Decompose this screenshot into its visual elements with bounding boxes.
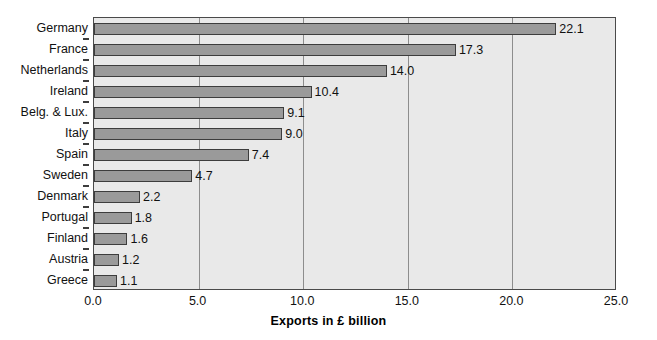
bar-row: 10.4 [94,82,615,103]
bar-value-label: 9.1 [287,104,304,122]
bar-value-label: 10.4 [315,83,339,101]
y-axis-tick [83,206,89,208]
category-label-denmark: Denmark [37,189,88,203]
bar-row: 9.0 [94,124,615,145]
category-label-belg-lux: Belg. & Lux. [21,105,88,119]
bar-portugal [94,212,132,224]
x-axis-tick-labels: 0.05.010.015.020.025.0 [0,293,657,313]
bar-germany [94,23,556,35]
category-label-sweden: Sweden [43,168,88,182]
category-label-spain: Spain [56,147,88,161]
x-tick-20.0: 20.0 [481,293,541,309]
bar-row: 1.2 [94,250,615,271]
y-axis-tick [83,80,89,82]
bar-value-label: 22.1 [559,20,583,38]
category-label-germany: Germany [37,21,88,35]
bar-value-label: 9.0 [285,125,302,143]
exports-bar-chart: GermanyFranceNetherlandsIrelandBelg. & L… [0,0,657,340]
bar-value-label: 4.7 [195,167,212,185]
x-tick-0.0: 0.0 [63,293,123,309]
bar-row: 1.1 [94,271,615,292]
bar-finland [94,233,127,245]
x-tick-15.0: 15.0 [377,293,437,309]
y-axis-tick [83,269,89,271]
bar-row: 22.1 [94,19,615,40]
y-axis-tick [83,143,89,145]
bar-denmark [94,191,140,203]
bar-value-label: 14.0 [390,62,414,80]
category-label-greece: Greece [47,273,88,287]
bar-value-label: 1.2 [122,251,139,269]
bar-row: 9.1 [94,103,615,124]
x-tick-5.0: 5.0 [168,293,228,309]
y-axis-tick [83,227,89,229]
y-axis-tick [83,59,89,61]
x-axis-title: Exports in £ billion [0,314,657,328]
category-label-portugal: Portugal [41,210,88,224]
y-axis-tick [83,122,89,124]
category-label-france: France [49,42,88,56]
bar-row: 14.0 [94,61,615,82]
y-axis-tick [83,164,89,166]
bar-row: 7.4 [94,145,615,166]
y-axis-tick [83,248,89,250]
bar-greece [94,275,117,287]
bar-row: 17.3 [94,40,615,61]
category-label-ireland: Ireland [50,84,88,98]
bar-france [94,44,456,56]
bar-netherlands [94,65,387,77]
bar-value-label: 17.3 [459,41,483,59]
bar-austria [94,254,119,266]
bar-value-label: 1.1 [120,272,137,290]
plot-area: 22.117.314.010.49.19.07.44.72.21.81.61.2… [93,17,616,290]
category-axis-labels: GermanyFranceNetherlandsIrelandBelg. & L… [0,17,88,290]
category-label-austria: Austria [49,252,88,266]
category-label-netherlands: Netherlands [21,63,88,77]
x-tick-10.0: 10.0 [272,293,332,309]
y-axis-tick [83,185,89,187]
bar-row: 2.2 [94,187,615,208]
bar-value-label: 1.8 [135,209,152,227]
category-label-italy: Italy [65,126,88,140]
bar-row: 1.8 [94,208,615,229]
x-tick-25.0: 25.0 [586,293,646,309]
bar-value-label: 2.2 [143,188,160,206]
bar-sweden [94,170,192,182]
bar-value-label: 1.6 [130,230,147,248]
bar-series: 22.117.314.010.49.19.07.44.72.21.81.61.2… [94,18,615,289]
y-axis-tick [83,101,89,103]
bar-belg-lux [94,107,284,119]
y-axis-tick [83,38,89,40]
bar-value-label: 7.4 [252,146,269,164]
bar-spain [94,149,249,161]
bar-italy [94,128,282,140]
bar-row: 1.6 [94,229,615,250]
bar-row: 4.7 [94,166,615,187]
category-label-finland: Finland [47,231,88,245]
bar-ireland [94,86,312,98]
